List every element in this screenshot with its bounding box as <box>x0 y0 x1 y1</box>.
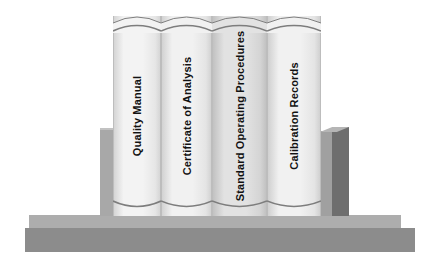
book-spine-label: Quality Manual <box>131 76 143 156</box>
book-4[interactable]: Calibration Records <box>267 16 321 216</box>
left-bookend <box>100 130 113 216</box>
book-2[interactable]: Certificate of Analysis <box>161 16 212 216</box>
book-1[interactable]: Quality Manual <box>113 16 161 216</box>
book-spine-label: Standard Operating Procedures <box>234 31 246 202</box>
shelf-ledge <box>29 215 401 229</box>
top-background-mask <box>0 0 442 16</box>
book-spine-label: Calibration Records <box>288 62 300 169</box>
bookshelf-illustration: Quality ManualCertificate of AnalysisSta… <box>0 0 442 267</box>
book-spine-label: Certificate of Analysis <box>181 57 193 176</box>
shelf-slab <box>25 228 415 252</box>
right-bookend-side-face <box>332 127 349 216</box>
right-bookend-front-face <box>320 131 332 216</box>
book-3[interactable]: Standard Operating Procedures <box>212 16 267 216</box>
